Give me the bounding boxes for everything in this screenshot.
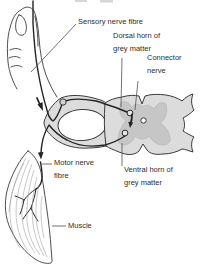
muscle xyxy=(5,151,52,263)
label-muscle: Muscle xyxy=(68,220,92,233)
reflex-arc-diagram: Sensory nerve fibre Dorsal horn of grey … xyxy=(0,0,200,268)
spinal-cord xyxy=(104,94,194,155)
motor-arrowhead xyxy=(38,152,44,160)
central-canal xyxy=(141,118,146,123)
muscle-outline xyxy=(5,151,52,263)
spinal-nerve xyxy=(44,95,107,148)
cropped-label-remnant xyxy=(75,0,113,3)
label-motor-nerve-fibre: Motor nerve fibre xyxy=(54,157,94,182)
label-sensory-nerve-fibre: Sensory nerve fibre xyxy=(78,16,143,29)
fingernail xyxy=(16,15,27,35)
motor-nerve-branches xyxy=(15,189,38,221)
sensory-arrowhead xyxy=(38,102,44,111)
label-ventral-horn: Ventral horn of grey matter xyxy=(124,164,173,189)
diagram-canvas xyxy=(0,0,200,268)
dorsal-root-ganglion xyxy=(60,99,66,105)
label-connector-nerve: Connector nerve xyxy=(147,52,182,77)
sensory-leader-line xyxy=(31,24,76,72)
synapse-circle-ventral xyxy=(122,130,128,136)
